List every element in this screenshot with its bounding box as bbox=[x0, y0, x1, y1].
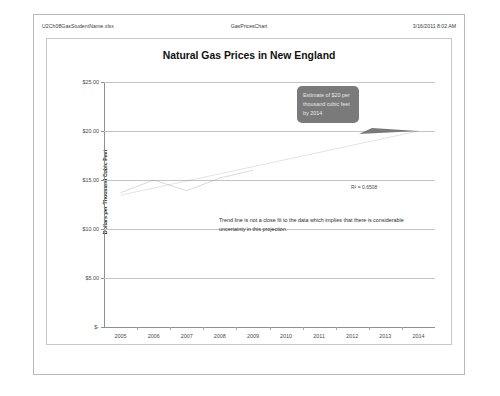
x-tick-mark-4 bbox=[236, 327, 237, 330]
x-tick-mark-9 bbox=[402, 327, 403, 330]
y-tick-label-10: $10.00 bbox=[83, 226, 100, 232]
y-tick-label-5: $5.00 bbox=[86, 275, 100, 281]
x-tick-label-2007: 2007 bbox=[181, 333, 193, 339]
x-tick-label-2010: 2010 bbox=[280, 333, 292, 339]
y-tick-label-15: $15.00 bbox=[83, 177, 100, 183]
x-tick-mark-1 bbox=[137, 327, 138, 330]
chart-frame: Natural Gas Prices in New England Dollar… bbox=[46, 38, 452, 345]
trend-note: Trend line is not a close fit to the dat… bbox=[219, 216, 409, 235]
header-sheet-name: GasPricesChart bbox=[34, 23, 464, 29]
printed-page: U2Ch08GasStudentName.xlsx GasPricesChart… bbox=[33, 14, 465, 375]
plot-area: $25.00 $20.00 $15.00 $10.00 $5.00 $- 200… bbox=[104, 82, 435, 327]
x-tick-label-2012: 2012 bbox=[346, 333, 358, 339]
x-tick-mark-8 bbox=[369, 327, 370, 330]
page-header: U2Ch08GasStudentName.xlsx GasPricesChart… bbox=[34, 23, 464, 35]
x-tick-mark-5 bbox=[270, 327, 271, 330]
x-tick-label-2006: 2006 bbox=[148, 333, 160, 339]
r-squared-label: R² = 0.6508 bbox=[351, 184, 377, 190]
chart-title: Natural Gas Prices in New England bbox=[47, 50, 451, 61]
x-tick-label-2014: 2014 bbox=[412, 333, 424, 339]
callout-estimate: Estimate of $20 per thousand cubic feet … bbox=[297, 86, 359, 123]
x-tick-label-2009: 2009 bbox=[247, 333, 259, 339]
y-tick-label-0: $- bbox=[94, 324, 99, 330]
x-tick-mark-2 bbox=[170, 327, 171, 330]
x-tick-label-2011: 2011 bbox=[313, 333, 325, 339]
y-tick-mark-0 bbox=[101, 327, 104, 328]
x-tick-mark-6 bbox=[303, 327, 304, 330]
header-timestamp: 3/16/2011 8:02 AM bbox=[413, 23, 456, 29]
x-tick-label-2005: 2005 bbox=[115, 333, 127, 339]
y-tick-label-20: $20.00 bbox=[83, 128, 100, 134]
y-tick-label-25: $25.00 bbox=[83, 79, 100, 85]
callout-tail bbox=[359, 128, 418, 134]
x-tick-label-2008: 2008 bbox=[214, 333, 226, 339]
x-tick-label-2013: 2013 bbox=[379, 333, 391, 339]
callout-tail-layer bbox=[104, 82, 435, 327]
x-tick-mark-3 bbox=[203, 327, 204, 330]
x-tick-mark-7 bbox=[336, 327, 337, 330]
